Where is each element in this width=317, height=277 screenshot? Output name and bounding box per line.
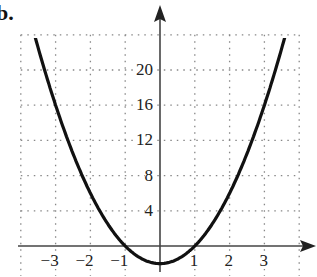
x-tick-label: 1 <box>190 252 199 269</box>
x-tick-label: 2 <box>225 252 234 269</box>
y-tick-label: 16 <box>136 96 153 113</box>
y-tick-label: 4 <box>145 202 154 219</box>
plot-area <box>0 0 317 277</box>
x-tick-label: −3 <box>41 252 59 269</box>
x-tick-label: −2 <box>75 252 93 269</box>
x-tick-label: −1 <box>110 252 128 269</box>
x-tick-label: 3 <box>259 252 268 269</box>
axes <box>18 16 306 272</box>
y-tick-label: 8 <box>145 167 154 184</box>
y-tick-label: 12 <box>136 131 153 148</box>
y-tick-label: 20 <box>136 61 153 78</box>
